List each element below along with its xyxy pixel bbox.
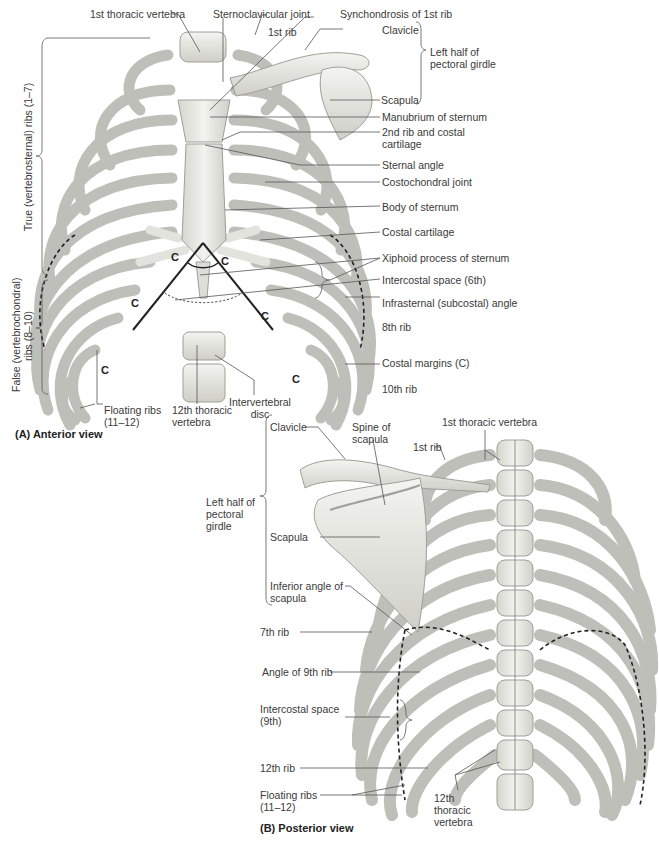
label-angle-9th-rib: Angle of 9th rib [262,666,333,678]
caption-anterior-view: (A) Anterior view [15,428,103,440]
label-scapula-a: Scapula [381,94,419,106]
label-costal-margins: Costal margins (C) [382,357,470,369]
label-1st-thoracic-vertebra-b: 1st thoracic vertebra [442,416,537,428]
label-1st-rib-b: 1st rib [413,441,442,453]
label-body-of-sternum: Body of sternum [382,201,458,213]
label-scapula-b: Scapula [270,531,308,543]
label-false-ribs-line1: False (vertebrochondral) [10,280,22,392]
label-synchondrosis-1st-rib: Synchondrosis of 1st rib [340,8,452,20]
label-12th-thoracic-vertebra-b: 12th thoracic vertebra [434,792,484,828]
label-1st-thoracic-vertebra: 1st thoracic vertebra [90,8,185,20]
costal-margin-marker: C [131,297,139,309]
label-8th-rib: 8th rib [382,321,411,333]
label-floating-ribs-a: Floating ribs (11–12) [104,404,166,428]
ribs-posterior-right [535,455,652,815]
label-costal-cartilage: Costal cartilage [382,226,454,238]
label-intercostal-space-6th: Intercostal space (6th) [382,274,486,286]
label-left-half-pectoral-girdle-b: Left half of pectoral girdle [206,496,266,532]
label-infrasternal-angle: Infrasternal (subcostal) angle [382,297,517,309]
caption-posterior-view: (B) Posterior view [260,822,354,834]
label-7th-rib: 7th rib [260,626,289,638]
costal-margin-marker: C [261,310,269,322]
label-12th-thoracic-vertebra-a: 12th thoracic vertebra [172,404,242,428]
label-intercostal-space-9th: Intercostal space (9th) [260,703,350,727]
costal-margin-marker: C [101,364,109,376]
anterior-rib-cage [35,32,372,425]
scapula-a [320,67,372,140]
label-spine-of-scapula: Spine of scapula [352,421,407,445]
costal-margin-marker: C [171,251,179,263]
manubrium [178,100,230,142]
label-manubrium: Manubrium of sternum [382,111,487,123]
label-sternal-angle: Sternal angle [382,159,444,171]
posterior-rib-cage [300,440,652,815]
label-inferior-angle-scapula: Inferior angle of scapula [270,580,350,604]
label-clavicle-b: Clavicle [270,421,307,433]
label-true-ribs: True (vertebrosternal) ribs (1–7) [22,42,34,272]
costal-margin-marker: C [221,255,229,267]
label-1st-rib-a: 1st rib [268,26,297,38]
label-costochondral-joint: Costochondral joint [382,176,472,188]
label-2nd-rib-costal-cartilage: 2nd rib and costal cartilage [382,126,477,150]
label-10th-rib: 10th rib [382,383,417,395]
scapula-b [314,478,426,632]
label-12th-rib: 12th rib [260,762,295,774]
label-sternoclavicular-joint: Sternoclavicular joint [213,8,310,20]
label-floating-ribs-b: Floating ribs (11–12) [260,789,325,813]
label-xiphoid-process: Xiphoid process of sternum [382,252,509,264]
label-left-half-pectoral-girdle-a: Left half of pectoral girdle [430,46,500,70]
label-false-ribs-line2: ribs (8–10) [22,280,34,392]
costal-margin-marker: C [292,373,300,385]
label-clavicle-a: Clavicle [382,24,419,36]
